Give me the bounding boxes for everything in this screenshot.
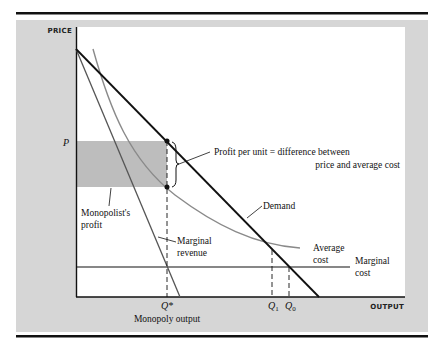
- monopoly-profit-diagram: PRICE OUTPUT P Profit per unit = differe…: [0, 0, 442, 350]
- q-star-label: Q*: [161, 300, 173, 311]
- monopolist-profit-area: [77, 141, 167, 187]
- top-rule: [16, 12, 428, 15]
- profit-per-unit-label-line2: price and average cost: [315, 160, 400, 170]
- profit-per-unit-label-line1: Profit per unit = difference between: [214, 147, 350, 157]
- average-cost-label-line2: cost: [313, 255, 329, 265]
- monopoly-output-caption: Monopoly output: [134, 314, 201, 324]
- marginal-cost-label-line1: Marginal: [355, 256, 390, 266]
- price-point: [165, 139, 170, 144]
- x-axis-label: OUTPUT: [370, 303, 404, 311]
- average-cost-point: [165, 185, 170, 190]
- monopolist-profit-label-line2: profit: [81, 220, 102, 230]
- bottom-rule: [16, 335, 428, 338]
- marginal-cost-label-line2: cost: [355, 268, 371, 278]
- average-cost-label-line1: Average: [313, 243, 344, 253]
- y-axis-label: PRICE: [47, 27, 72, 35]
- marginal-revenue-label-line2: revenue: [177, 248, 207, 258]
- marginal-revenue-label-line1: Marginal: [177, 236, 212, 246]
- demand-label: Demand: [263, 201, 295, 211]
- monopolist-profit-label-line1: Monopolist's: [81, 208, 131, 218]
- price-level-label: P: [62, 137, 69, 148]
